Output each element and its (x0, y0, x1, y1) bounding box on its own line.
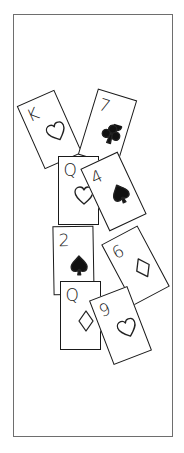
diamond-suit-icon (128, 253, 156, 282)
card-rank: Q (66, 287, 79, 304)
spade-suit-icon (68, 254, 88, 276)
card-rank: K (24, 104, 41, 124)
card-rank: 2 (58, 232, 69, 249)
diamond-suit-icon (76, 310, 96, 332)
heart-suit-icon (43, 118, 70, 146)
heart-suit-icon (114, 314, 141, 342)
card-rank: Q (64, 162, 77, 179)
card-rank: 7 (96, 96, 111, 115)
club-suit-icon (98, 120, 124, 147)
card-rank: 6 (109, 242, 127, 262)
spade-suit-icon (107, 179, 134, 207)
card-rank: 9 (96, 300, 112, 320)
card-rank: 4 (88, 167, 105, 187)
